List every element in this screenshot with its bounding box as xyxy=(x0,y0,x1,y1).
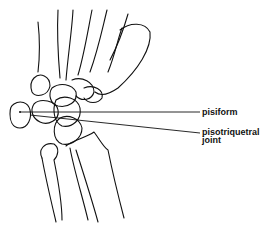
metacarpal-2 xyxy=(58,10,60,78)
ulna xyxy=(41,144,62,220)
radius xyxy=(66,132,124,218)
pisotriquetral-joint-label-line2: joint xyxy=(202,136,262,144)
pisotriquetral-joint-label: pisotriquetral joint xyxy=(202,128,262,144)
thumb-metacarpal xyxy=(95,24,150,94)
pisiform-bone xyxy=(10,102,31,128)
metacarpal-5 xyxy=(90,10,107,72)
metacarpal-4 xyxy=(78,10,92,75)
metacarpal-1 xyxy=(38,22,40,72)
carpal-hamate xyxy=(31,75,50,95)
pisiform-leader-dot xyxy=(19,111,21,113)
pisiform-label: pisiform xyxy=(202,108,238,116)
carpal-trapezoid xyxy=(72,79,94,100)
metacarpal-3 xyxy=(66,10,73,80)
ulna-outer xyxy=(42,158,56,222)
thumb-metacarpal-inner xyxy=(108,28,122,72)
